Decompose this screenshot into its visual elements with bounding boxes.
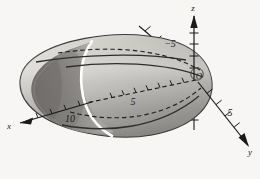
y-negative-tick-label: −5 [164, 38, 176, 49]
figure-canvas: z y x O −5 5 5 10 [0, 0, 260, 179]
z-axis-label: z [190, 3, 195, 13]
x-tick-label-10: 10 [65, 113, 75, 124]
y-axis-label: y [247, 147, 252, 157]
origin-label: O [196, 71, 203, 81]
x-tick-label-5: 5 [131, 96, 136, 107]
y-positive-tick-label: 5 [228, 107, 233, 118]
paraboloid-figure-svg: z y x O −5 5 5 10 [0, 0, 260, 179]
x-axis-label: x [6, 121, 11, 131]
